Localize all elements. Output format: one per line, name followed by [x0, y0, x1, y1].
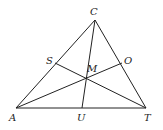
- label-c: C: [90, 6, 98, 17]
- label-a: A: [8, 112, 16, 123]
- label-m: M: [86, 63, 98, 74]
- label-u: U: [77, 112, 86, 123]
- side-ac: [16, 20, 95, 108]
- label-o: O: [124, 55, 132, 66]
- label-t: T: [144, 112, 152, 123]
- triangle-diagram: C A T U S O M: [0, 0, 163, 130]
- label-s: S: [46, 55, 53, 66]
